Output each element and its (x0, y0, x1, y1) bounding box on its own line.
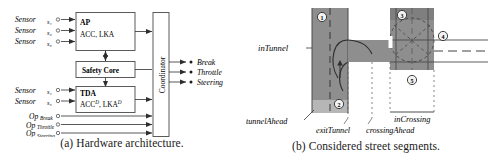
sensor-label-s3: Sensor (15, 37, 36, 46)
marker-1-label: 1 (321, 15, 324, 21)
coordinator-label: Coordinator (158, 56, 167, 93)
panel-hardware-architecture: Sensor s₁ Sensor s₂ Sensor s₃ AP ACC, (0, 0, 244, 165)
port-circle-s1 (56, 18, 59, 21)
label-in-tunnel: inTunnel (258, 43, 289, 53)
sensor-sub-s2: s₂ (47, 29, 52, 36)
coordinator-box: Coordinator (153, 13, 169, 137)
panel-a-caption: (a) Hardware architecture. (0, 137, 244, 149)
label-exit-tunnel: exitTunnel (316, 126, 351, 135)
sensor-sub-s4: s₄ (47, 88, 52, 95)
marker-4: 4 (438, 31, 447, 40)
op-label-break: Op (29, 112, 38, 121)
figure-container: Sensor s₁ Sensor s₂ Sensor s₃ AP ACC, (0, 0, 488, 165)
port-circle-op-throttle (56, 123, 59, 126)
marker-5: 5 (407, 75, 416, 84)
op-sub-throttle: Throttle (37, 124, 55, 130)
exit-tunnel-leader (344, 118, 348, 124)
op-sub-break: Break (40, 115, 53, 121)
ap-box: AP ACC, LKA (76, 13, 135, 51)
coordinator-outputs: Break Throttle Steering (169, 58, 223, 87)
marker-2-label: 2 (338, 102, 341, 108)
sensor-label-s2: Sensor (15, 26, 36, 35)
sensor-inputs-top: Sensor s₁ Sensor s₂ Sensor s₃ (15, 15, 75, 47)
bullet-output-throttle (190, 71, 193, 74)
port-circle-s5 (56, 99, 59, 102)
panel-street-segments: 1 2 3 4 5 inTunnel tunnelAhead exitTunne… (244, 0, 488, 165)
tda-body-lka: , LKA (99, 100, 119, 109)
tda-box: TDA ACCD, LKAD (76, 87, 135, 113)
safety-core-box: Safety Core (76, 62, 135, 78)
crossing-ahead-leader (368, 118, 372, 124)
tunnel-ahead-leader (304, 110, 314, 120)
marker-3-label: 3 (401, 13, 404, 19)
bullet-output-break (190, 61, 193, 64)
tda-box-title: TDA (80, 89, 97, 98)
output-label-break: Break (197, 58, 216, 67)
tda-body-acc: ACC (80, 100, 95, 109)
output-label-steering: Steering (197, 78, 223, 87)
label-tunnel-ahead: tunnelAhead (246, 117, 288, 126)
port-circle-s3 (56, 40, 59, 43)
ap-box-body: ACC, LKA (80, 30, 115, 39)
hardware-architecture-diagram: Sensor s₁ Sensor s₂ Sensor s₃ AP ACC, (0, 0, 244, 137)
sensor-sub-s3: s₃ (47, 40, 52, 47)
street-segments-diagram: 1 2 3 4 5 inTunnel tunnelAhead exitTunne… (244, 0, 488, 140)
op-label-throttle: Op (26, 121, 35, 130)
op-label-steering: Op (26, 129, 35, 137)
panel-b-caption: (b) Considered street segments. (244, 140, 488, 152)
bullet-output-steering (190, 81, 193, 84)
sensor-inputs-mid: Sensor s₄ Sensor s₅ (15, 86, 75, 107)
port-circle-op-steering (56, 131, 59, 134)
marker-2: 2 (334, 99, 343, 108)
sensor-label-s5: Sensor (15, 97, 36, 106)
port-circle-s4 (56, 88, 59, 91)
operator-inputs: Op Break Op Throttle Op Steering (26, 112, 152, 138)
marker-3: 3 (397, 10, 406, 19)
sensor-sub-s5: s₅ (47, 99, 52, 106)
marker-1: 1 (317, 12, 326, 21)
marker-5-label: 5 (411, 78, 414, 84)
port-circle-op-break (56, 114, 59, 117)
ap-box-title: AP (80, 18, 90, 27)
tda-sup-lka: D (117, 99, 122, 105)
sensor-label-s4: Sensor (15, 86, 36, 95)
crossing-entry-gap (389, 36, 393, 48)
marker-4-label: 4 (442, 34, 445, 40)
sensor-sub-s1: s₁ (47, 18, 52, 25)
sensor-label-s1: Sensor (15, 15, 36, 24)
port-circle-s2 (56, 29, 59, 32)
label-in-crossing: inCrossing (394, 115, 430, 124)
safety-core-label: Safety Core (82, 66, 120, 75)
label-crossing-ahead: crossingAhead (366, 126, 415, 135)
tda-box-body: ACCD, LKAD (80, 99, 122, 109)
output-label-throttle: Throttle (197, 68, 222, 77)
